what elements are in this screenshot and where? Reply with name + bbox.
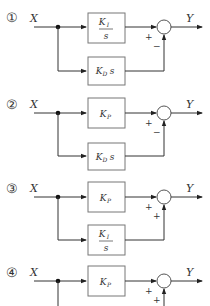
diagram-4: ④ X K P + + Y — [6, 265, 202, 306]
block-diagrams: ① X K I s K D s + − Y ② X K P K D s — [0, 0, 210, 306]
sign-plus-bottom: + — [153, 211, 161, 221]
output-label: Y — [186, 182, 195, 195]
sign-plus-bottom: + — [153, 295, 161, 305]
output-label: Y — [186, 12, 195, 25]
sign-plus: + — [145, 202, 153, 212]
svg-text:s: s — [110, 152, 115, 162]
diagram-number: ④ — [6, 265, 18, 280]
svg-text:s: s — [104, 243, 109, 253]
input-label: X — [29, 182, 39, 195]
summing-junction — [157, 20, 171, 34]
diagram-3: ③ X K P K I s + + Y — [6, 181, 202, 255]
output-label: Y — [186, 98, 195, 111]
diagram-number: ① — [6, 10, 18, 25]
diagram-number: ③ — [6, 181, 18, 196]
svg-text:s: s — [110, 66, 115, 76]
summing-junction — [157, 190, 171, 204]
output-label: Y — [186, 266, 195, 279]
svg-text:K: K — [98, 17, 107, 27]
input-label: X — [29, 266, 39, 279]
diagram-1: ① X K I s K D s + − Y — [6, 10, 202, 85]
sign-plus: + — [145, 118, 153, 128]
summing-junction — [157, 274, 171, 288]
svg-text:D: D — [102, 70, 108, 77]
diagram-2: ② X K P K D s + − Y — [6, 97, 202, 170]
svg-text:s: s — [104, 31, 109, 41]
svg-text:K: K — [98, 229, 107, 239]
input-label: X — [29, 98, 39, 111]
sign-minus: − — [153, 127, 161, 137]
sign-plus: + — [145, 286, 153, 296]
sign-plus: + — [145, 32, 153, 42]
svg-text:D: D — [102, 156, 108, 163]
diagram-number: ② — [6, 97, 18, 112]
summing-junction — [157, 106, 171, 120]
input-label: X — [29, 12, 39, 25]
sign-minus: − — [153, 41, 161, 51]
